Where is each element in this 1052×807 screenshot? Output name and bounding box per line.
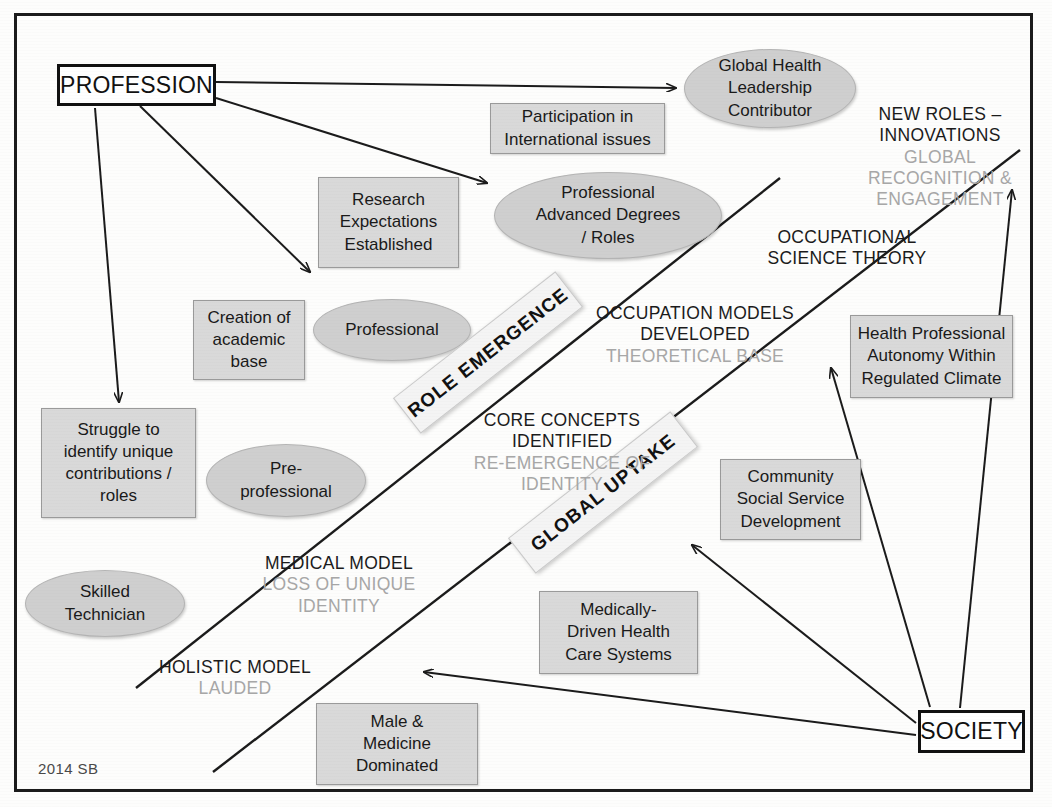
box-participation-international-issues[interactable]: Participation in International issues xyxy=(490,103,665,154)
profession-anchor-label: PROFESSION xyxy=(60,72,213,99)
caption-dark-line: OCCUPATION MODELS xyxy=(586,303,804,324)
box-medically-driven-health-care-systems[interactable]: Medically- Driven Health Care Systems xyxy=(539,591,698,674)
ellipse-skilled-technician[interactable]: Skilled Technician xyxy=(25,570,185,637)
box-label: Research Expectations Established xyxy=(340,189,437,255)
caption-light-line: RECOGNITION & xyxy=(860,168,1020,189)
ellipse-label: Professional Advanced Degrees / Roles xyxy=(536,182,681,248)
caption-light-line: THEORETICAL BASE xyxy=(586,346,804,367)
society-anchor-box[interactable]: SOCIETY xyxy=(918,710,1025,753)
caption-dark-line: MEDICAL MODEL xyxy=(244,553,434,574)
caption-light-line: IDENTITY xyxy=(462,474,662,495)
caption-light-line: GLOBAL xyxy=(860,147,1020,168)
diagram-canvas: PROFESSION SOCIETY Global Health Leaders… xyxy=(0,0,1052,807)
box-male-medicine-dominated[interactable]: Male & Medicine Dominated xyxy=(316,703,478,785)
caption-dark-line: DEVELOPED xyxy=(586,324,804,345)
society-anchor-label: SOCIETY xyxy=(920,718,1022,745)
caption-dark-line: IDENTIFIED xyxy=(462,431,662,452)
caption-light-line: LAUDED xyxy=(140,678,330,699)
caption-dark-line: HOLISTIC MODEL xyxy=(140,657,330,678)
caption-medical-model: MEDICAL MODEL LOSS OF UNIQUE IDENTITY xyxy=(244,553,434,617)
caption-holistic-model: HOLISTIC MODEL LAUDED xyxy=(140,657,330,700)
signature-label: 2014 SB xyxy=(38,760,98,777)
caption-light-line: IDENTITY xyxy=(244,596,434,617)
caption-light-line: RE-EMERGENCE OF xyxy=(462,453,662,474)
box-health-professional-autonomy[interactable]: Health Professional Autonomy Within Regu… xyxy=(850,315,1013,398)
box-label: Health Professional Autonomy Within Regu… xyxy=(858,323,1005,389)
caption-light-line: ENGAGEMENT xyxy=(860,189,1020,210)
box-label: Community Social Service Development xyxy=(737,466,845,532)
caption-occupation-models-developed: OCCUPATION MODELS DEVELOPED THEORETICAL … xyxy=(586,303,804,367)
ellipse-pre-professional[interactable]: Pre- professional xyxy=(206,444,366,517)
caption-dark-line: INNOVATIONS xyxy=(860,125,1020,146)
box-label: Participation in International issues xyxy=(504,106,650,150)
box-creation-of-academic-base[interactable]: Creation of academic base xyxy=(193,300,305,380)
caption-occupational-science-theory: OCCUPATIONAL SCIENCE THEORY xyxy=(757,227,937,270)
caption-dark-line: SCIENCE THEORY xyxy=(757,248,937,269)
ellipse-label: Professional xyxy=(345,319,439,341)
caption-light-line: LOSS OF UNIQUE xyxy=(244,574,434,595)
caption-new-roles-innovations: NEW ROLES – INNOVATIONS GLOBAL RECOGNITI… xyxy=(860,104,1020,211)
caption-dark-line: NEW ROLES – xyxy=(860,104,1020,125)
profession-anchor-box[interactable]: PROFESSION xyxy=(57,64,216,106)
box-label: Struggle to identify unique contribution… xyxy=(64,419,174,507)
caption-dark-line: OCCUPATIONAL xyxy=(757,227,937,248)
box-label: Male & Medicine Dominated xyxy=(356,711,438,777)
ellipse-label: Skilled Technician xyxy=(65,581,145,625)
box-label: Medically- Driven Health Care Systems xyxy=(565,599,672,665)
box-community-social-service-development[interactable]: Community Social Service Development xyxy=(720,459,861,540)
ellipse-label: Global Health Leadership Contributor xyxy=(718,55,821,121)
caption-core-concepts-identified: CORE CONCEPTS IDENTIFIED RE-EMERGENCE OF… xyxy=(462,410,662,495)
ellipse-professional-advanced-degrees-roles[interactable]: Professional Advanced Degrees / Roles xyxy=(494,172,722,259)
caption-dark-line: CORE CONCEPTS xyxy=(462,410,662,431)
ellipse-label: Pre- professional xyxy=(240,458,332,502)
box-struggle-identify-unique-contributions[interactable]: Struggle to identify unique contribution… xyxy=(41,408,196,518)
ellipse-global-health-leadership-contributor[interactable]: Global Health Leadership Contributor xyxy=(684,49,856,128)
box-label: Creation of academic base xyxy=(207,307,290,373)
ellipse-professional[interactable]: Professional xyxy=(313,299,471,361)
box-research-expectations-established[interactable]: Research Expectations Established xyxy=(318,177,459,268)
